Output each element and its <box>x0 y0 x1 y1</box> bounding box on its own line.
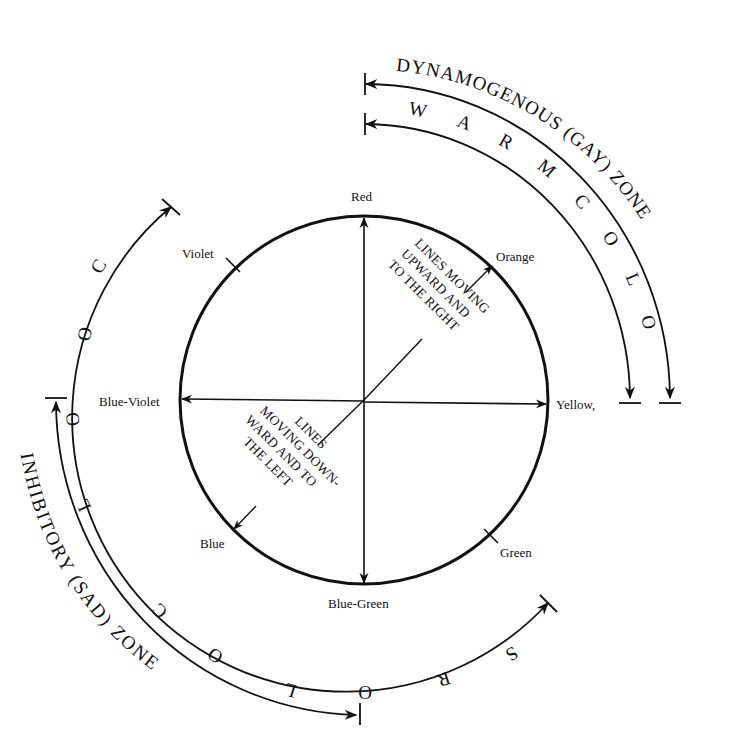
label-orange: Orange <box>496 249 534 264</box>
color-circle-diagram: Red Orange Yellow, Green Blue-Green Blue… <box>0 0 730 754</box>
inhibitory-zone-label: INHIBITORY (SAD) ZONE <box>17 451 165 675</box>
label-blue-green: Blue-Green <box>328 596 389 611</box>
diagonal-line-upper <box>364 339 422 400</box>
dynamogenous-zone-label: DYNAMOGENOUS (GAY) ZONE <box>395 54 656 223</box>
label-blue: Blue <box>200 536 225 551</box>
upward-note: LINES MOVING UPWARD AND TO THE RIGHT <box>385 233 493 341</box>
label-green: Green <box>500 545 532 560</box>
svg-text:S: S <box>502 642 522 665</box>
svg-text:O: O <box>358 682 372 703</box>
axis-yellow <box>364 402 546 404</box>
svg-text:O: O <box>73 325 96 343</box>
warm-colors-label: W A R M C O L O R S <box>0 0 667 363</box>
svg-text:C: C <box>147 599 171 623</box>
label-blue-violet: Blue-Violet <box>99 394 160 409</box>
label-yellow: Yellow, <box>556 397 595 412</box>
svg-text:L: L <box>281 679 298 702</box>
blue-arrow <box>234 506 256 529</box>
label-red: Red <box>351 189 372 204</box>
svg-text:L: L <box>71 496 95 515</box>
downward-note: LINES MOVING DOWN- WARD AND TO THE LEFT <box>230 388 356 514</box>
label-violet: Violet <box>182 246 214 261</box>
svg-text:O: O <box>61 411 83 427</box>
svg-text:O: O <box>204 643 226 668</box>
svg-text:C: C <box>86 256 111 277</box>
axis-blue-violet <box>182 399 364 401</box>
